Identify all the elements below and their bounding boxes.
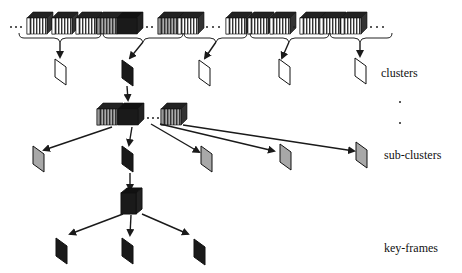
shot-black [118,103,144,125]
key-frame [122,238,133,264]
subcluster-shots [97,103,187,125]
leading-ellipsis [10,26,22,28]
shot-white [270,12,296,34]
shots-row [10,12,384,34]
shot-black [117,12,143,34]
cluster-frame [355,58,366,84]
cluster-frame-selected [122,60,133,86]
shot-white [341,12,367,34]
subcluster-frame [33,146,44,172]
cluster-frame [279,59,290,85]
cluster-frames [55,58,366,86]
subcluster-frame [356,142,367,168]
arrows-to-keyframes [70,214,188,235]
arrows-to-clusters [60,42,360,58]
hierarchical-clustering-diagram [0,0,462,273]
subcluster-frame-selected [122,146,133,172]
subcluster-frames [33,142,367,172]
arrow-to-subshots [127,86,128,100]
key-frame [194,239,205,265]
shot-gray [161,103,187,125]
key-frame [56,238,67,264]
key-frames [56,238,205,265]
shot-white [27,12,53,34]
shot-white [178,12,204,34]
cluster-frame [55,59,66,85]
clusters-label: clusters [381,66,418,81]
vertical-ellipsis-dot [399,122,401,124]
arrows-to-subclusters [44,124,354,152]
grouping-braces [19,33,392,42]
key-frames-label: key-frames [384,241,438,256]
shot-white [52,12,78,34]
subcluster-frame [201,146,212,172]
cluster-frame [199,60,210,86]
subcluster-frame [280,144,291,170]
keyframe-shot [121,188,142,214]
vertical-ellipsis-dot [399,101,401,103]
sub-clusters-label: sub-clusters [384,148,441,163]
